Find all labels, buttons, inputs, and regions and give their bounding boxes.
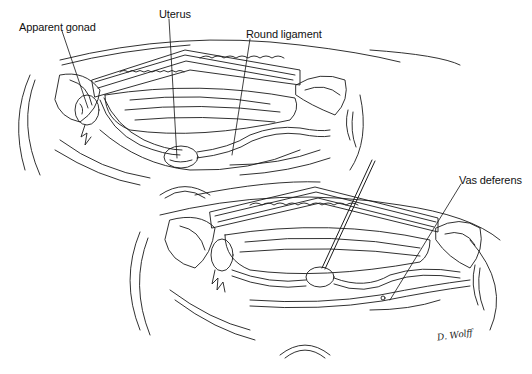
illustration-canvas: Apparent gonad Uterus Round ligament Vas… [0,0,532,374]
label-vas-deferens: Vas deferens [459,175,522,186]
label-apparent-gonad: Apparent gonad [19,22,96,33]
surgical-drawing [0,0,532,374]
label-round-ligament: Round ligament [246,29,322,40]
label-uterus: Uterus [159,9,191,20]
leader-apparent-gonad [62,31,88,108]
bottom-panel-drawing [130,160,500,358]
leader-lines [62,19,461,300]
top-panel-drawing [19,40,460,198]
